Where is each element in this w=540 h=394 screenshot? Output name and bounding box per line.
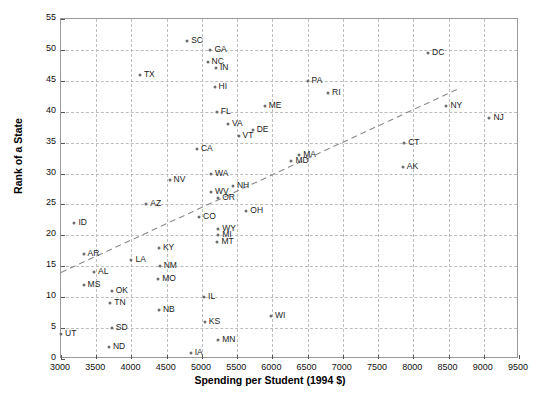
data-point [216, 240, 219, 243]
data-point [215, 67, 218, 70]
y-tick [61, 297, 65, 298]
data-point [157, 308, 160, 311]
data-point-label: IL [208, 291, 215, 301]
trendline [61, 19, 519, 359]
data-point [231, 184, 234, 187]
data-point-label: AK [407, 161, 418, 171]
data-point-label: UT [65, 328, 76, 338]
data-point [198, 215, 201, 218]
data-point [110, 290, 113, 293]
y-tick [61, 143, 65, 144]
data-point [488, 116, 491, 119]
data-point-label: AR [88, 248, 100, 258]
gridline-vertical [449, 19, 450, 357]
data-point-label: SC [191, 35, 203, 45]
x-axis-title: Spending per Student (1994 $) [0, 374, 540, 386]
gridline-vertical [308, 19, 309, 357]
data-point [93, 271, 96, 274]
data-point-label: OK [116, 285, 128, 295]
y-tick-label: 0 [30, 352, 56, 362]
x-tick-label: 9500 [496, 362, 540, 372]
data-point [298, 154, 301, 157]
data-point-label: TN [114, 297, 125, 307]
gridline-horizontal [61, 266, 517, 267]
y-tick [61, 81, 65, 82]
data-point-label: WI [275, 310, 285, 320]
data-point-label: HI [219, 81, 228, 91]
data-point-label: RI [332, 87, 341, 97]
data-point [245, 209, 248, 212]
data-point [203, 320, 206, 323]
data-point [209, 48, 212, 51]
data-point [263, 104, 266, 107]
data-point-label: VA [232, 118, 243, 128]
data-point [130, 259, 133, 262]
data-point [237, 135, 240, 138]
data-point-label: MS [88, 279, 101, 289]
data-point [189, 351, 192, 354]
data-point [206, 61, 209, 64]
y-tick-label: 30 [30, 167, 56, 177]
data-point [138, 73, 141, 76]
data-point [210, 172, 213, 175]
y-tick-label: 50 [30, 43, 56, 53]
data-point [82, 252, 85, 255]
data-point [445, 104, 448, 107]
data-point [306, 79, 309, 82]
data-point [401, 166, 404, 169]
x-tick [519, 355, 520, 359]
y-tick-label: 5 [30, 321, 56, 331]
gridline-horizontal [61, 235, 517, 236]
y-tick-label: 15 [30, 259, 56, 269]
data-point-label: CT [408, 137, 419, 147]
data-point [217, 197, 220, 200]
data-point [168, 178, 171, 181]
y-tick [61, 204, 65, 205]
data-point [226, 123, 229, 126]
data-point-label: MN [222, 334, 235, 344]
y-tick [61, 235, 65, 236]
data-point [109, 302, 112, 305]
data-point [157, 277, 160, 280]
plot-area: UTIDARMSALTNOKSDNDLAAZTXKYNMMONBNVIASCCA… [60, 18, 518, 358]
y-tick-label: 35 [30, 136, 56, 146]
data-point-label: MA [303, 149, 316, 159]
y-tick-label: 40 [30, 105, 56, 115]
data-point [195, 147, 198, 150]
data-point [427, 52, 430, 55]
gridline-horizontal [61, 174, 517, 175]
data-point-label: MO [162, 273, 176, 283]
data-point-label: NM [164, 260, 177, 270]
gridline-vertical [272, 19, 273, 357]
data-point-label: PA [312, 75, 323, 85]
gridline-vertical [484, 19, 485, 357]
data-point [269, 314, 272, 317]
data-point-label: LA [135, 254, 145, 264]
x-tick [308, 355, 309, 359]
data-point [215, 110, 218, 113]
y-tick [61, 50, 65, 51]
data-point [107, 345, 110, 348]
gridline-horizontal [61, 204, 517, 205]
data-point-label: AL [98, 266, 108, 276]
gridline-horizontal [61, 328, 517, 329]
data-point [158, 265, 161, 268]
y-tick-label: 55 [30, 12, 56, 22]
x-tick [449, 355, 450, 359]
data-point-label: TX [144, 69, 155, 79]
data-point [251, 129, 254, 132]
data-point-label: NJ [493, 112, 503, 122]
x-tick [484, 355, 485, 359]
gridline-vertical [413, 19, 414, 357]
y-tick [61, 19, 65, 20]
y-tick-label: 25 [30, 197, 56, 207]
gridline-vertical [202, 19, 203, 357]
data-point [327, 92, 330, 95]
data-point [145, 203, 148, 206]
gridline-horizontal [61, 81, 517, 82]
data-point [60, 333, 63, 336]
y-tick-label: 45 [30, 74, 56, 84]
y-tick [61, 359, 65, 360]
gridline-horizontal [61, 297, 517, 298]
y-tick [61, 328, 65, 329]
